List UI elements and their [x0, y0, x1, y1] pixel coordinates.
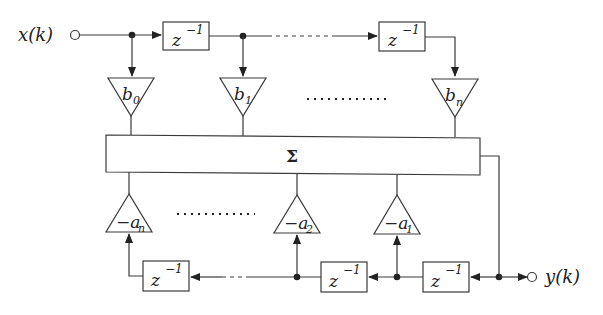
svg-text:z: z [328, 271, 339, 291]
svg-text:b: b [445, 85, 456, 105]
svg-text:2: 2 [305, 223, 313, 236]
svg-text:b: b [122, 84, 133, 104]
svg-text:z: z [171, 30, 182, 50]
svg-text:z: z [387, 30, 398, 50]
branch-node [394, 274, 401, 281]
delay-block-bottom-2: z −1 [321, 262, 367, 292]
filter-block-diagram: x(k) z −1 z −1 b 0 b 1 b n Σ [0, 0, 603, 315]
delay-block-top-1: z −1 [163, 22, 209, 50]
svg-text:n: n [456, 96, 463, 109]
delay-block-top-n: z −1 [379, 22, 425, 51]
branch-node [294, 274, 301, 281]
gain-neg-a2: −a 2 [274, 195, 320, 236]
gain-neg-an: −a n [106, 194, 152, 235]
output-label: y(k) [544, 266, 580, 287]
gain-neg-a1: −a 1 [374, 195, 420, 236]
input-signal: x(k) [18, 24, 80, 45]
svg-text:−1: −1 [445, 263, 463, 277]
summer-label: Σ [286, 146, 298, 166]
output-feedback-line [480, 156, 499, 277]
delay-block-bottom-1: z −1 [423, 262, 469, 292]
svg-text:−1: −1 [165, 262, 183, 276]
gain-bn: b n [432, 79, 478, 117]
svg-text:1: 1 [406, 223, 413, 236]
summer-block: Σ [106, 135, 480, 175]
svg-text:z: z [430, 271, 441, 291]
svg-text:1: 1 [245, 94, 252, 107]
svg-text:−1: −1 [402, 23, 420, 37]
svg-text:−1: −1 [343, 263, 361, 277]
svg-text:n: n [138, 222, 145, 235]
svg-text:0: 0 [133, 94, 140, 107]
output-port [528, 273, 537, 282]
output-signal: y(k) [528, 266, 581, 287]
signal-line [425, 37, 455, 76]
signal-line [129, 234, 143, 276]
svg-text:−a: −a [116, 212, 140, 232]
gain-b0: b 0 [108, 78, 154, 116]
svg-text:−1: −1 [186, 23, 204, 37]
input-label: x(k) [18, 24, 53, 45]
svg-text:−a: −a [384, 213, 408, 233]
gain-b1: b 1 [220, 78, 266, 116]
svg-text:−a: −a [284, 213, 308, 233]
input-port [71, 31, 80, 40]
svg-text:z: z [150, 270, 161, 290]
delay-block-bottom-n: z −1 [143, 261, 189, 291]
svg-text:b: b [234, 84, 245, 104]
